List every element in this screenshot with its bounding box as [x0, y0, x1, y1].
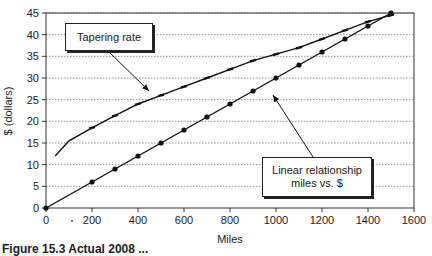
x-tick-label: 600: [175, 214, 193, 226]
data-point: [273, 75, 278, 80]
data-point: [319, 49, 324, 54]
data-point: [158, 95, 164, 97]
y-tick-label: 5: [33, 180, 39, 192]
artifact-dot: [71, 220, 73, 222]
data-point: [135, 103, 141, 105]
x-tick-label: 1400: [356, 214, 380, 226]
data-point: [250, 88, 255, 93]
y-tick-label: 40: [27, 29, 39, 41]
x-tick-label: 0: [43, 214, 49, 226]
data-point: [227, 69, 233, 71]
x-tick-label: 200: [83, 214, 101, 226]
data-point: [388, 10, 393, 15]
y-tick-label: 45: [27, 7, 39, 19]
x-axis-title: Miles: [217, 233, 243, 245]
data-point: [158, 140, 163, 145]
data-point: [365, 23, 370, 28]
data-point: [250, 60, 256, 62]
data-point: [43, 205, 48, 210]
data-point: [319, 38, 325, 40]
arrow-linear: [273, 95, 313, 157]
data-point: [181, 127, 186, 132]
data-point: [365, 21, 371, 23]
figure-caption: Figure 15.3 Actual 2008 ...: [2, 242, 148, 256]
y-axis-title: $ (dollars): [2, 87, 14, 136]
data-point: [342, 36, 347, 41]
y-tick-label: 20: [27, 115, 39, 127]
callout-linear-line2: miles vs. $: [291, 177, 343, 190]
y-tick-label: 0: [33, 202, 39, 214]
data-point: [296, 62, 301, 67]
callout-tapering-rate: Tapering rate: [65, 23, 153, 51]
data-point: [227, 101, 232, 106]
y-tick-label: 10: [27, 159, 39, 171]
data-point: [181, 86, 187, 88]
x-tick-label: 800: [221, 214, 239, 226]
x-axis-ticks: 02004006008001000120014001600: [43, 208, 426, 226]
x-tick-label: 1000: [264, 214, 288, 226]
callout-tapering-label: Tapering rate: [77, 31, 141, 44]
x-tick-label: 400: [129, 214, 147, 226]
x-tick-label: 1200: [310, 214, 334, 226]
data-point: [112, 115, 118, 117]
y-axis-ticks: 051015202530354045: [27, 7, 46, 214]
data-point: [204, 77, 210, 79]
y-tick-label: 15: [27, 137, 39, 149]
callout-linear-line1: Linear relationship: [272, 164, 362, 177]
data-point: [89, 179, 94, 184]
y-tick-label: 35: [27, 50, 39, 62]
y-tick-label: 30: [27, 72, 39, 84]
data-point: [342, 30, 348, 32]
data-point: [89, 127, 95, 129]
data-point: [135, 153, 140, 158]
x-tick-label: 1600: [402, 214, 426, 226]
y-tick-label: 25: [27, 94, 39, 106]
data-point: [296, 47, 302, 49]
callout-linear-relationship: Linear relationship miles vs. $: [262, 157, 372, 197]
data-point: [112, 166, 117, 171]
data-point: [273, 53, 279, 55]
data-point: [204, 114, 209, 119]
